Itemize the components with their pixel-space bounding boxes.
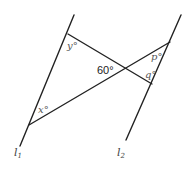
angle-x-label: x° bbox=[38, 104, 49, 115]
angle-p-label: p° bbox=[151, 51, 162, 62]
line-l1 bbox=[20, 15, 74, 146]
transversal-x-p bbox=[29, 42, 170, 125]
angle-q-label: q° bbox=[145, 69, 156, 80]
line-l2-label: l2 bbox=[117, 146, 126, 160]
geometry-diagram: y° x° p° q° 60° l1 l2 bbox=[0, 0, 187, 170]
angle-60-label: 60° bbox=[97, 64, 114, 76]
line-l1-label: l1 bbox=[14, 146, 22, 160]
angle-y-label: y° bbox=[66, 40, 78, 51]
transversal-y-q bbox=[68, 34, 152, 84]
